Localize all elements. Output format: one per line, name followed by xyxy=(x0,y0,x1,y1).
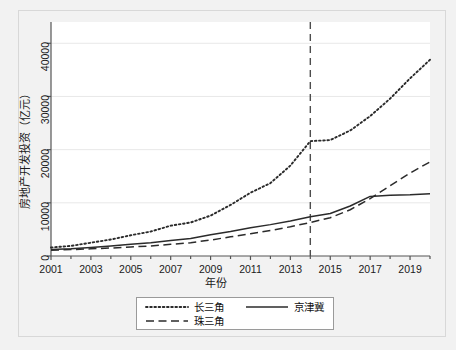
y-tick-label: 20000 xyxy=(39,149,51,189)
x-tick-label: 2005 xyxy=(115,263,147,275)
y-tick-label: 0 xyxy=(39,255,51,295)
legend-key-dotted xyxy=(145,303,189,311)
chart-figure: 2001200320052007200920112013201520172019… xyxy=(0,0,456,350)
plot-background-group xyxy=(51,22,430,256)
legend-key-solid xyxy=(245,303,289,311)
y-axis-title: 房地产开发投资（亿元） xyxy=(16,78,32,218)
plot-area: 2001200320052007200920112013201520172019… xyxy=(0,0,456,350)
x-tick-label: 2013 xyxy=(274,263,306,275)
x-tick-label: 2011 xyxy=(234,263,266,275)
legend-item[interactable]: 长三角 xyxy=(145,302,224,313)
x-tick-label: 2019 xyxy=(394,263,426,275)
legend-key-dashed xyxy=(145,317,189,325)
plot-background xyxy=(51,22,430,256)
legend-item-label: 长三角 xyxy=(194,302,224,313)
legend-item-label: 京津冀 xyxy=(294,302,324,313)
x-tick-label: 2017 xyxy=(354,263,386,275)
x-axis-title: 年份 xyxy=(205,274,227,290)
x-tick-label: 2003 xyxy=(75,263,107,275)
legend-item[interactable]: 京津冀 xyxy=(245,302,324,313)
legend-item[interactable]: 珠三角 xyxy=(145,316,224,327)
y-tick-label: 40000 xyxy=(39,42,51,82)
y-tick-label: 10000 xyxy=(39,202,51,242)
chart-legend: 长三角京津冀珠三角 xyxy=(136,297,334,330)
x-tick-label: 2015 xyxy=(314,263,346,275)
y-tick-label: 30000 xyxy=(39,95,51,135)
x-tick-label: 2007 xyxy=(155,263,187,275)
legend-item-label: 珠三角 xyxy=(194,316,224,327)
